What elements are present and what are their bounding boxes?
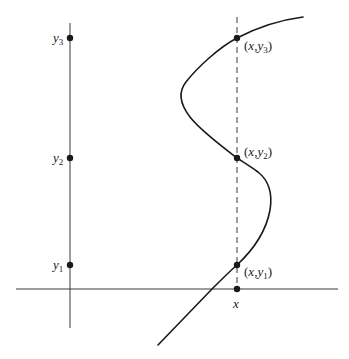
label-y1: y1 xyxy=(51,257,63,274)
paren-close: ) xyxy=(268,264,272,279)
label-y2-sub: 2 xyxy=(59,157,64,167)
paren-close: ) xyxy=(268,144,272,159)
y1-axis-dot xyxy=(67,262,73,268)
y2-axis-dot xyxy=(67,155,73,161)
x-axis-dot xyxy=(234,286,240,292)
relation-curve xyxy=(158,17,303,345)
point-x-y2-dot xyxy=(234,155,240,161)
label-point-x-y2: (x,y2) xyxy=(244,144,272,161)
label-point-x-y3: (x,y3) xyxy=(244,38,272,55)
y3-axis-dot xyxy=(67,35,73,41)
relation-diagram: y3 y2 y1 (x,y3) (x,y2) (x,y1) x xyxy=(0,0,349,359)
label-y2: y2 xyxy=(51,150,63,167)
label-point-x-y1: (x,y1) xyxy=(244,264,272,281)
paren-close: ) xyxy=(268,38,272,53)
point-x-y1-dot xyxy=(234,262,240,268)
label-y3: y3 xyxy=(51,30,64,47)
label-y1-sub: 1 xyxy=(59,264,64,274)
label-x: x xyxy=(232,296,239,311)
label-y3-sub: 3 xyxy=(59,37,64,47)
point-x-y3-dot xyxy=(234,35,240,41)
